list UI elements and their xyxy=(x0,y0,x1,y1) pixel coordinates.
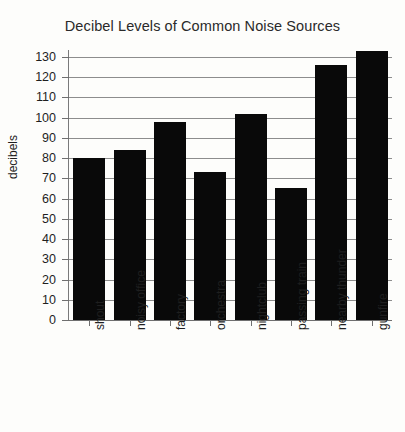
y-axis-tick-label: 110 xyxy=(14,91,56,104)
x-axis-tick-mark xyxy=(210,321,211,326)
x-axis-tick-label: orchestra xyxy=(215,280,227,330)
y-axis-tick-label: 10 xyxy=(14,294,56,307)
x-axis-tick-label: nearby thunder xyxy=(336,249,348,330)
x-axis-tick-mark xyxy=(251,321,252,326)
y-axis-tick-mark xyxy=(62,259,69,260)
y-axis-tick-mark xyxy=(62,97,69,98)
y-axis-tick-label: 100 xyxy=(14,112,56,125)
bar xyxy=(73,158,105,320)
y-axis-tick-mark xyxy=(62,199,69,200)
x-axis-tick-label: gunfire xyxy=(377,293,389,330)
y-axis-tick-label: 40 xyxy=(14,233,56,246)
x-axis-tick-label: factory xyxy=(175,294,187,330)
y-axis-tick-label: 70 xyxy=(14,172,56,185)
y-axis-tick-mark xyxy=(62,300,69,301)
y-axis-tick-mark xyxy=(62,138,69,139)
y-axis-tick-label: 30 xyxy=(14,253,56,266)
y-axis-tick-mark xyxy=(62,219,69,220)
y-axis-tick-label: 20 xyxy=(14,274,56,287)
y-axis-tick-mark xyxy=(62,77,69,78)
y-axis-tick-label: 0 xyxy=(14,314,56,327)
bar xyxy=(356,51,388,320)
chart-title: Decibel Levels of Common Noise Sources xyxy=(0,18,405,34)
y-axis-tick-mark xyxy=(62,320,69,321)
y-axis-tick-mark xyxy=(62,239,69,240)
y-axis-tick-mark xyxy=(62,280,69,281)
bar xyxy=(154,122,186,320)
x-axis-tick-mark xyxy=(130,321,131,326)
x-axis-tick-mark xyxy=(170,321,171,326)
x-axis-tick-mark xyxy=(372,321,373,326)
y-axis-tick-label: 130 xyxy=(14,51,56,64)
y-axis-tick-label: 50 xyxy=(14,213,56,226)
gridline xyxy=(69,57,392,58)
y-axis-tick-mark xyxy=(62,178,69,179)
y-axis-tick-label: 90 xyxy=(14,132,56,145)
x-axis-tick-mark xyxy=(89,321,90,326)
y-axis-tick-mark xyxy=(62,158,69,159)
x-axis-tick-mark xyxy=(331,321,332,326)
x-axis-tick-label: nightclub xyxy=(256,282,268,330)
y-axis-tick-label: 120 xyxy=(14,71,56,84)
x-axis-tick-label: shout xyxy=(94,301,106,330)
x-axis-tick-label: passing train xyxy=(296,262,308,330)
y-axis-tick-label: 80 xyxy=(14,152,56,165)
x-axis-tick-label: noisy office xyxy=(135,270,147,330)
bar-chart-figure: Decibel Levels of Common Noise Sources d… xyxy=(0,0,405,432)
y-axis-tick-mark xyxy=(62,118,69,119)
y-axis-tick-label: 60 xyxy=(14,193,56,206)
x-axis-tick-mark xyxy=(291,321,292,326)
y-axis-tick-mark xyxy=(62,57,69,58)
